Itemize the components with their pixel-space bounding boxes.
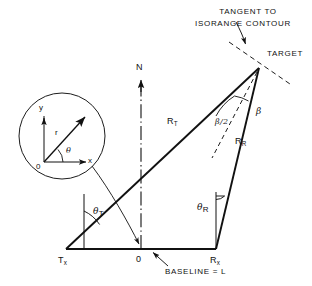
theta-receiver-label: θR <box>197 196 209 214</box>
beta-angle-label: β <box>256 106 262 116</box>
transmitter-range-line-RT <box>66 68 259 249</box>
range-receiver-label: RR <box>235 136 247 146</box>
inset-origin-label: 0 <box>36 163 41 172</box>
north-label: N <box>136 62 143 72</box>
range-transmitter-letter: R <box>167 116 174 126</box>
baseline-label: BASELINE = L <box>165 268 226 277</box>
tangent-label-line-1: TANGENT TO <box>188 8 308 17</box>
beta-angle-arc <box>235 96 249 101</box>
beta-half-angle-label: β/2 <box>215 118 228 127</box>
inset-x-axis-label: x <box>88 157 92 166</box>
range-transmitter-label: RT <box>167 116 178 126</box>
range-receiver-letter: R <box>235 136 242 146</box>
inset-radius-vector-arrow <box>44 117 85 162</box>
origin-label: 0 <box>136 254 141 264</box>
tangent-label-line-2: ISORANGE CONTOUR <box>178 20 308 29</box>
theta-receiver-subscript: R <box>203 205 209 214</box>
target-label: TARGET <box>267 50 303 59</box>
diagram-canvas <box>0 0 312 286</box>
transmitter-site-letter: T <box>58 255 64 265</box>
receiver-site-label: Rx <box>210 255 220 265</box>
inset-radius-label: r <box>55 129 58 138</box>
receiver-site-subscript: x <box>217 259 220 266</box>
theta-receiver-symbol: θ <box>197 202 203 212</box>
inset-theta-angle-arc <box>58 150 63 163</box>
inset-theta-label: θ <box>66 147 71 156</box>
transmitter-site-subscript: x <box>64 259 67 266</box>
baseline-label-leader-arrow <box>153 253 168 267</box>
bistatic-radar-geometry-diagram: TANGENT TO ISORANGE CONTOUR TARGET N RT … <box>0 0 312 286</box>
theta-receiver-angle-arc <box>216 196 225 200</box>
range-transmitter-subscript: T <box>174 120 178 127</box>
receiver-range-line-RR <box>216 68 259 249</box>
receiver-site-letter: R <box>210 255 217 265</box>
theta-transmitter-subscript: T <box>99 209 104 218</box>
transmitter-site-label: Tx <box>58 255 67 265</box>
theta-transmitter-label: θT <box>93 200 104 218</box>
inset-y-axis-label: y <box>39 104 43 113</box>
theta-transmitter-symbol: θ <box>93 206 99 216</box>
range-receiver-subscript: R <box>242 140 247 147</box>
